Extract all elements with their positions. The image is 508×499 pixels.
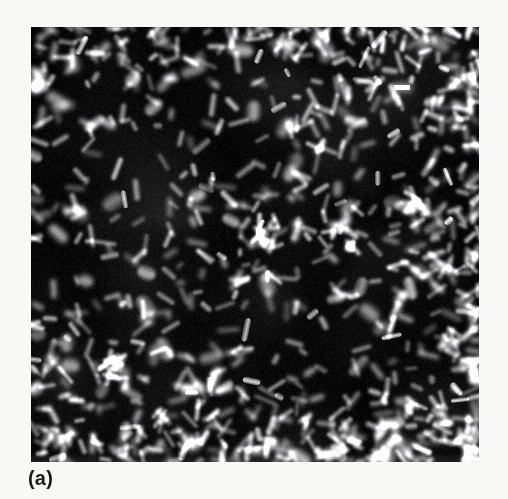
figure-panel: (a) <box>0 0 508 499</box>
panel-label: (a) <box>28 468 53 488</box>
micrograph-image <box>31 27 479 462</box>
micrograph-canvas <box>31 27 479 462</box>
